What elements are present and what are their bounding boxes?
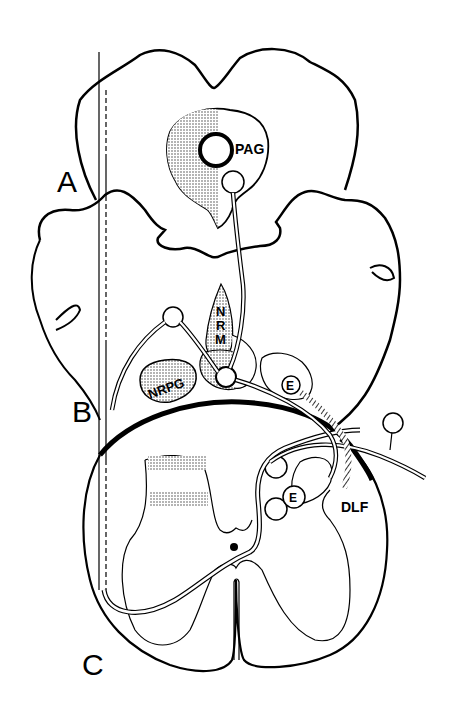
spinal-cord-section [83, 402, 387, 671]
label-e-spinal: E [289, 491, 297, 505]
spinothalamic-path-inner [104, 430, 360, 612]
pain-pathway-diagram: E E NRPG N R M [0, 0, 449, 711]
spinal-cord-outline [83, 440, 387, 671]
medulla-notch-left [56, 305, 80, 330]
label-pag: PAG [235, 142, 264, 156]
drg-neuron [383, 413, 403, 433]
cerebral-aqueduct [200, 134, 232, 166]
substantia-gelatinosa-lower [150, 492, 208, 506]
dorsal-root-ganglion-stalk [390, 432, 392, 450]
label-nrm-m: M [215, 332, 226, 347]
medulla-notch-right [370, 265, 394, 280]
central-canal [230, 543, 238, 551]
pag-stippled-half [167, 109, 218, 228]
label-nrm-r: R [216, 318, 226, 333]
panel-label-b: B [72, 397, 92, 427]
midbrain-section [76, 49, 358, 228]
label-nrm-n: N [216, 304, 225, 319]
panel-label-c: C [82, 650, 104, 680]
label-e-medulla: E [286, 379, 294, 393]
substantia-gelatinosa-upper [148, 456, 206, 470]
pag-neuron [222, 171, 244, 193]
label-dlf: DLF [341, 500, 368, 514]
spinothalamic-path [104, 430, 360, 612]
panel-label-a: A [57, 167, 77, 197]
medulla-outline-left [32, 240, 100, 420]
